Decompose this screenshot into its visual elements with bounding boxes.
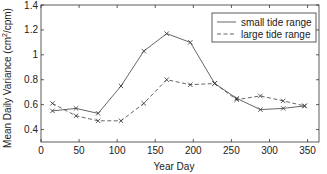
y-tick-label: 0.8 [24, 74, 38, 85]
y-axis-label: Mean Daily Variance (cm2/cpm) [1, 8, 13, 148]
x-tick-label: 50 [74, 145, 86, 156]
x-tick-label: 150 [147, 145, 164, 156]
x-tick-label: 350 [299, 145, 316, 156]
x-marker [119, 84, 123, 88]
legend-label: small tide range [241, 17, 312, 28]
legend: small tide rangelarge tide range [212, 13, 316, 42]
x-tick-label: 0 [38, 145, 44, 156]
x-tick-label: 300 [261, 145, 278, 156]
legend-label: large tide range [241, 29, 311, 40]
x-marker [212, 81, 216, 85]
x-marker [142, 49, 146, 53]
x-marker [164, 31, 168, 35]
series-line-large-tide [52, 80, 304, 121]
x-tick-label: 100 [109, 145, 126, 156]
y-tick-label: 1.4 [24, 0, 38, 11]
x-marker [164, 78, 168, 82]
line-chart: 0501001502002503003500.40.60.811.21.4 sm… [0, 0, 327, 174]
x-marker [50, 101, 54, 105]
x-tick-label: 200 [185, 145, 202, 156]
x-marker [188, 40, 192, 44]
x-marker [142, 101, 146, 105]
series-layer [50, 31, 307, 123]
x-axis-label: Year Day [154, 161, 195, 172]
y-tick-label: 1 [32, 49, 38, 60]
y-axis-label-unit: /cpm) [2, 8, 13, 33]
y-tick-label: 0.6 [24, 99, 38, 110]
x-marker [119, 119, 123, 123]
y-tick-label: 0.4 [24, 124, 38, 135]
y-tick-label: 1.2 [24, 24, 38, 35]
y-axis-label-main: Mean Daily Variance (cm [2, 37, 13, 148]
series-line-small-tide [52, 34, 304, 114]
x-tick-label: 250 [223, 145, 240, 156]
